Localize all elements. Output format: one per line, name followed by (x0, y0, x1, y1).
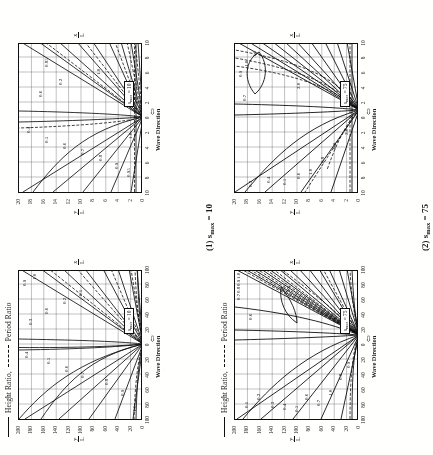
x-tick: 2 (360, 132, 366, 135)
contour-label: 0.4 (26, 127, 31, 133)
y-tick: 40 (330, 426, 336, 431)
contour-canvas-2-wide (235, 270, 358, 419)
y-tick: 12 (65, 199, 71, 204)
x-tick: 20 (360, 357, 366, 362)
contour-label: 0.8 (104, 379, 109, 385)
plot-area-smax10-wide: 0.4 0.3 0.5 0.6 0.7 0.6 0.2 0.1 0.8 0.9 … (18, 270, 142, 420)
figure-caption-1: (1) smax = 10 (204, 0, 215, 455)
figure-legend: Height Ratio, Period Ratio (4, 302, 13, 437)
x-tick: 10 (144, 190, 150, 195)
y-tick: 4 (330, 199, 336, 202)
y-axis-label-1-near: y L (72, 209, 86, 215)
y-tick: 160 (256, 426, 262, 434)
y-tick: 8 (305, 199, 311, 202)
wave-direction-arrow-icon: ⇦ (364, 335, 373, 342)
contour-label: 1.0 (328, 390, 333, 396)
contour-label: 0.2 (62, 298, 67, 304)
x-tick: 6 (360, 72, 366, 75)
contour-label: 0.7 (236, 294, 241, 300)
contour-label: 0.3 (248, 181, 253, 187)
x-axis-label-1-wide: x L (72, 259, 86, 265)
contour-label: 0.9 (346, 362, 351, 368)
x-tick: 40 (360, 372, 366, 377)
plot-area-smax75-near: 0.3 0.4 0.5 0.6 1.0 0.8 0.9 2.0 0.7 0.9 … (234, 43, 358, 193)
y-tick: 160 (40, 426, 46, 434)
y-tick: 60 (318, 426, 324, 431)
contour-label: 0.9 (120, 390, 125, 396)
contour-label: 0.6 (38, 91, 43, 97)
x-tick: 4 (144, 147, 150, 150)
y-tick: 0 (355, 426, 361, 429)
scanned-page: Height Ratio, Period Ratio (0, 0, 433, 455)
contour-label: 0.6 (248, 314, 253, 320)
x-tick: 2 (144, 102, 150, 105)
x-tick: 0 (360, 344, 366, 347)
x-tick: 8 (360, 57, 366, 60)
y-tick: 140 (268, 426, 274, 434)
legend-height-ratio-label: Height Ratio, (4, 371, 13, 413)
x-tick: 10 (360, 190, 366, 195)
y-tick: 20 (343, 426, 349, 431)
contour-label: 0.7 (80, 372, 85, 378)
contour-label: 0.5 (282, 179, 287, 185)
y-tick: 180 (27, 426, 33, 434)
y-tick: 14 (268, 199, 274, 204)
y-tick: 10 (293, 199, 299, 204)
x-tick: 8 (144, 177, 150, 180)
legend-dashed-line-icon (224, 345, 225, 367)
x-tick: 8 (144, 57, 150, 60)
contour-label: 0.3 (28, 319, 33, 325)
figure-legend: Height Ratio, Period Ratio (220, 302, 229, 437)
y-axis-label-2-near: y L (288, 209, 302, 215)
y-tick: 2 (343, 199, 349, 202)
smax-annotation-box: smax = 75 (340, 81, 350, 107)
x-tick: 60 (360, 297, 366, 302)
y-tick: 100 (77, 426, 83, 434)
y-tick: 4 (114, 199, 120, 202)
y-tick: 180 (243, 426, 249, 434)
figure-group-smax-75: Height Ratio, Period Ratio (216, 0, 432, 455)
wave-direction-arrow-icon: ⇦ (364, 108, 373, 115)
wave-direction-label: Wave Direction (154, 109, 161, 151)
contour-label: 0.8 (320, 157, 325, 163)
x-tick: 100 (360, 416, 366, 424)
contour-label: 0.9 (22, 280, 27, 286)
x-tick: 80 (144, 282, 150, 287)
y-tick: 2 (127, 199, 133, 202)
contour-label: 0.4 (266, 177, 271, 183)
contour-label: 0.9 (114, 163, 119, 169)
y-tick: 16 (256, 199, 262, 204)
y-tick: 20 (15, 199, 21, 204)
legend-period-ratio-label: Period Ratio (220, 302, 229, 341)
contour-canvas-2-near (235, 43, 358, 192)
figure-caption-2: (2) smax = 75 (420, 0, 431, 455)
contour-label: 0.6 (44, 308, 49, 314)
panel-smax75-near: 0.3 0.4 0.5 0.6 1.0 0.8 0.9 2.0 0.7 0.9 … (230, 10, 402, 223)
legend-dashed-line-icon (8, 345, 9, 367)
contour-label: 0.5 (46, 358, 51, 364)
wave-direction-arrow-icon: ⇦ (148, 108, 157, 115)
contour-label: 0.9 (238, 71, 243, 77)
contour-label: 0.4 (24, 352, 29, 358)
y-tick: 12 (281, 199, 287, 204)
y-tick: 20 (127, 426, 133, 431)
y-axis-label-1-wide: y L (72, 436, 86, 442)
y-tick: 6 (102, 199, 108, 202)
x-tick: 4 (360, 147, 366, 150)
wave-direction-label: Wave Direction (370, 336, 377, 378)
x-tick: 0 (360, 117, 366, 120)
panel-smax10-wide: 0.4 0.3 0.5 0.6 0.7 0.6 0.2 0.1 0.8 0.9 … (14, 237, 186, 450)
y-tick: 40 (114, 426, 120, 431)
x-tick: 60 (144, 297, 150, 302)
contour-label: 0.6 (304, 394, 309, 400)
contour-label: 0.85 (44, 58, 49, 67)
y-tick: 10 (77, 199, 83, 204)
legend-solid-line-icon (8, 417, 9, 437)
x-tick: 100 (144, 266, 150, 274)
plot-area-smax10-near: 0.4 0.5 0.6 0.7 0.8 0.9 0.95 0.6 0.2 0.8… (18, 43, 142, 193)
x-tick: 6 (144, 72, 150, 75)
x-tick: 80 (360, 282, 366, 287)
x-tick: 10 (144, 40, 150, 45)
x-tick: 60 (360, 387, 366, 392)
contour-label: 0.8 (98, 155, 103, 161)
